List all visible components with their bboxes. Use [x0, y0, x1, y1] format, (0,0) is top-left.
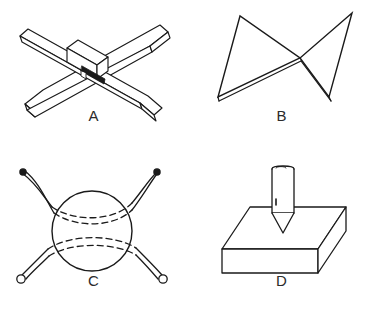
figure-panel-a: A: [0, 0, 187, 154]
bowtie-right-triangle: [300, 13, 352, 97]
bowtie-left-triangle: [218, 16, 300, 97]
figure-panel-d: D: [188, 155, 375, 309]
band-top-tips: [20, 169, 160, 175]
figure-label-d: D: [188, 273, 375, 288]
figure-sheet: A B: [0, 0, 375, 309]
band-upper-left-to-lower-right: [22, 171, 159, 213]
figure-panel-b: B: [188, 0, 375, 154]
figure-label-a: A: [0, 108, 187, 123]
slab-front-face: [222, 249, 318, 273]
sphere-outline: [52, 191, 132, 271]
punch-body: [272, 166, 294, 213]
figure-panel-c: C: [0, 155, 187, 309]
bowtie-twisted-band-illustration: [188, 0, 375, 154]
figure-label-b: B: [188, 108, 375, 123]
band-hidden-segments: [48, 203, 136, 256]
cross-bars-with-center-block-illustration: [0, 0, 187, 154]
figure-label-c: C: [0, 273, 187, 288]
